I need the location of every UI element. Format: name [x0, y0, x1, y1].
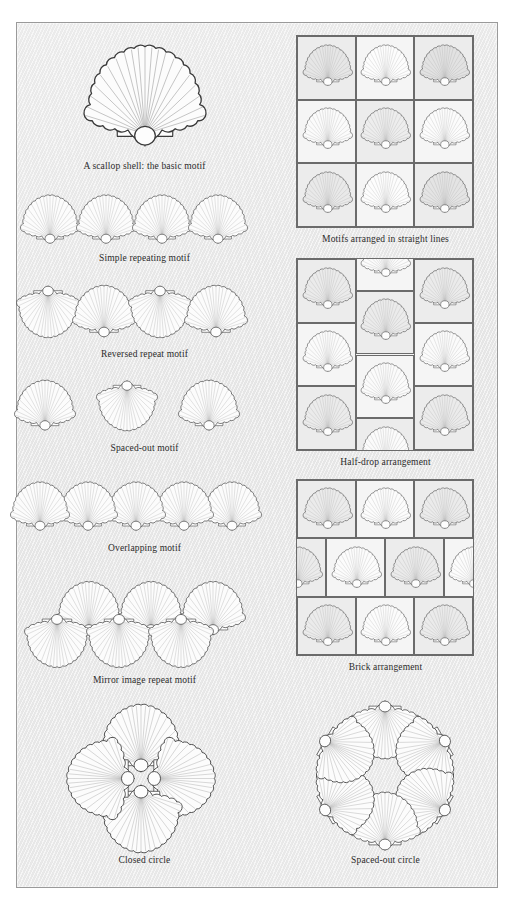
caption-spaced-out: Spaced-out motif	[17, 443, 272, 453]
grid-cell	[297, 36, 356, 100]
scallop-shell-icon	[19, 189, 81, 250]
shell	[23, 607, 91, 674]
scallop-shell-icon	[75, 189, 137, 250]
grid-cell	[414, 163, 473, 227]
shell	[302, 167, 354, 218]
caption-overlapping: Overlapping motif	[17, 543, 272, 553]
caption-basic-motif: A scallop shell: the basic motif	[17, 161, 272, 171]
shell	[419, 263, 471, 314]
shell	[187, 189, 249, 250]
scallop-shell-icon	[131, 189, 193, 250]
scallop-shell-icon	[419, 103, 471, 154]
grid-cell	[297, 259, 356, 323]
scallop-shell-icon	[419, 40, 471, 91]
figure-overlapping: Overlapping motif	[17, 475, 272, 563]
scallop-shell-icon	[9, 476, 71, 537]
scallop-shell-icon	[302, 103, 354, 154]
closed-circle-stage	[17, 705, 272, 853]
scallop-shell-icon	[183, 279, 249, 344]
shell	[302, 103, 354, 154]
grid-cell	[356, 418, 415, 451]
scallop-shell-icon	[147, 607, 215, 674]
scallop-shell-icon	[360, 422, 412, 451]
figure-brick: Brick arrangement	[272, 479, 499, 679]
shell	[75, 189, 137, 250]
grid-brick	[296, 479, 474, 656]
caption-reversed-repeat: Reversed repeat motif	[17, 349, 272, 359]
grid-cell	[356, 480, 415, 538]
grid-cell	[356, 163, 415, 227]
scallop-shell-icon	[360, 294, 412, 345]
shell	[360, 483, 412, 534]
spaced-out-stage	[17, 373, 272, 441]
shell	[183, 279, 249, 344]
grid-cell	[414, 259, 473, 323]
scallop-shell-icon	[419, 326, 471, 377]
grid-cell	[297, 100, 356, 164]
shell	[19, 189, 81, 250]
shell	[360, 600, 412, 651]
figure-mirror-image: Mirror image repeat motif	[17, 575, 272, 693]
simple-repeating-stage	[17, 189, 272, 251]
shell	[302, 483, 354, 534]
scallop-shell-icon	[13, 374, 77, 437]
scallop-shell-icon	[302, 40, 354, 91]
grid-cell	[356, 597, 415, 655]
scallop-shell-icon	[360, 40, 412, 91]
shell	[95, 374, 159, 437]
grid-cell	[297, 323, 356, 387]
scallop-shell-icon	[85, 607, 153, 674]
scallop-shell-icon	[360, 358, 412, 409]
scallop-shell-icon	[360, 167, 412, 218]
scallop-shell-icon	[360, 258, 412, 282]
scallop-shell-icon	[296, 542, 324, 593]
spaced-out-circle-stage	[272, 699, 499, 853]
reversed-repeat-stage	[17, 279, 272, 347]
scallop-shell-icon	[419, 483, 471, 534]
grid-cell	[414, 323, 473, 387]
grid-half-drop	[296, 258, 474, 451]
caption-half-drop: Half-drop arrangement	[272, 457, 499, 467]
shell	[147, 607, 215, 674]
shell	[302, 326, 354, 377]
shell	[419, 326, 471, 377]
shell	[390, 542, 442, 593]
right-column: Motifs arranged in straight lines	[272, 23, 499, 887]
shell	[419, 40, 471, 91]
grid-cell	[297, 597, 356, 655]
shell	[360, 103, 412, 154]
shell	[419, 600, 471, 651]
mirror-image-stage	[17, 575, 272, 673]
caption-mirror-image: Mirror image repeat motif	[17, 675, 272, 685]
scallop-shell-icon	[419, 167, 471, 218]
shell	[360, 358, 412, 409]
shell	[360, 167, 412, 218]
grid-cell	[414, 480, 473, 538]
shell	[85, 607, 153, 674]
grid-cell	[326, 538, 385, 596]
caption-straight-lines: Motifs arranged in straight lines	[272, 234, 499, 244]
scallop-shell-icon	[187, 189, 249, 250]
scallop-shell-icon	[302, 167, 354, 218]
figure-simple-repeating: Simple repeating motif	[17, 189, 272, 273]
shell	[419, 167, 471, 218]
grid-cell	[297, 480, 356, 538]
grid-cell	[414, 386, 473, 450]
left-column: A scallop shell: the basic motif	[17, 23, 272, 887]
grid-cell	[356, 291, 415, 355]
figure-half-drop: Half-drop arrangement	[272, 258, 499, 480]
shell	[360, 294, 412, 345]
shell	[331, 542, 383, 593]
grid-cell	[297, 163, 356, 227]
scallop-shell-icon	[360, 600, 412, 651]
scallop-shell-icon	[419, 600, 471, 651]
grid-cell	[356, 258, 415, 291]
shell	[360, 422, 412, 451]
grid-cell	[296, 538, 326, 596]
shell	[419, 483, 471, 534]
scallop-shell-icon	[302, 326, 354, 377]
shell	[296, 542, 324, 593]
grid-cell	[414, 36, 473, 100]
shell	[448, 542, 474, 593]
shell	[131, 189, 193, 250]
